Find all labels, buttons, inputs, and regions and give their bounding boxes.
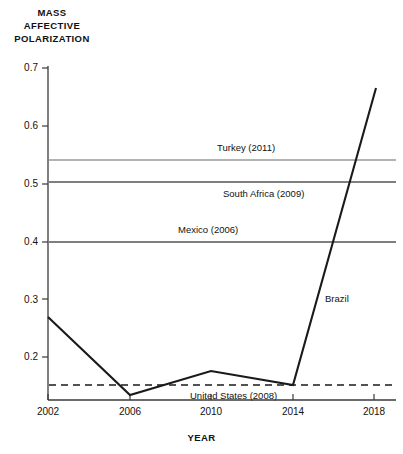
chart-plot-area (0, 0, 403, 454)
chart-container: MASS AFFECTIVE POLARIZATION 0.7 0.6 0.5 … (0, 0, 403, 454)
x-axis-ticks (48, 394, 374, 400)
y-axis-ticks (42, 68, 48, 357)
